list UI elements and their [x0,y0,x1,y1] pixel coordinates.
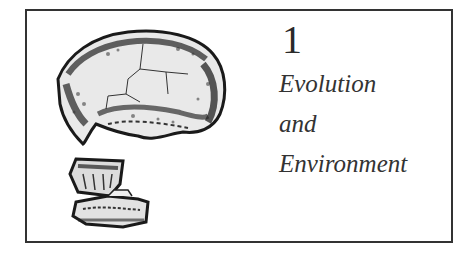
chapter-number: 1 [282,18,302,62]
fossil-skull-illustration [48,24,238,229]
chapter-title-line-2: and [279,110,317,138]
chapter-title-line-3: Environment [279,150,407,178]
chapter-title-line-1: Evolution [279,70,376,98]
